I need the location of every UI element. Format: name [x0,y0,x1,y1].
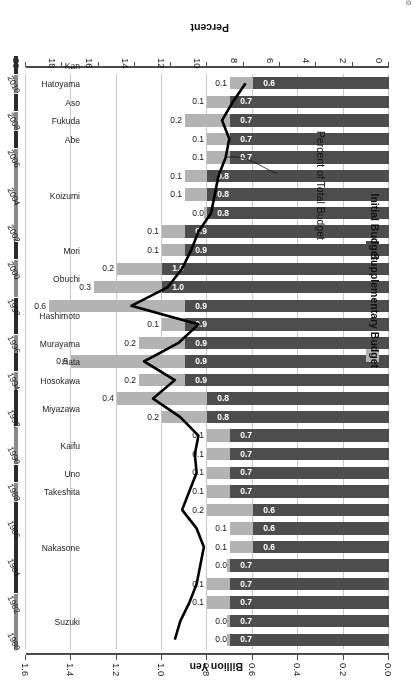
pm-name-label: Nakasone [24,543,80,553]
pm-name-label: Fukuda [24,116,80,126]
pm-name-label: Hata [24,357,80,367]
pm-name-label: Aso [24,98,80,108]
pm-name-label: Takeshita [24,487,80,497]
pm-name-label: Murayama [24,339,80,349]
figure-caption: FIGURE 5.1-1 Japan's public works spendi… [404,0,413,5]
pm-name-label: Hatoyama [24,79,80,89]
pm-term-segment [14,131,18,149]
pm-name-label: Mori [24,246,80,256]
percent-line-callout: Percent of Total Budget [315,131,327,240]
pm-name-label: Kan [24,61,80,71]
pm-term-segment [14,465,18,483]
pm-name-label: Uno [24,469,80,479]
percent-of-total-budget-line [131,83,245,640]
pm-name-label: Hashimoto [24,311,80,321]
pm-name-label: Miyazawa [24,404,80,414]
pm-term-segment [14,242,18,260]
pm-term-segment [14,502,18,594]
pm-name-label: Hosokawa [24,376,80,386]
pm-name-label: Abe [24,135,80,145]
figure-stage: Billion Yen Percent 0.00.20.40.60.81.01.… [0,0,419,691]
pm-name-label: Suzuki [24,617,80,627]
public-works-spending-chart: Billion Yen Percent 0.00.20.40.60.81.01.… [0,0,419,691]
legend-label-supplementary: Supplementary Budget [369,253,381,368]
callout-leader-line [226,157,278,174]
pm-term-segment [14,94,18,112]
pm-name-label: Kaifu [24,441,80,451]
pm-term-segment [14,353,18,371]
pm-term-segment [14,56,18,74]
pm-name-label: Obuchi [24,274,80,284]
pm-name-label: Koizumi [24,191,80,201]
legend-label-initial: Initial Budget [369,193,381,260]
